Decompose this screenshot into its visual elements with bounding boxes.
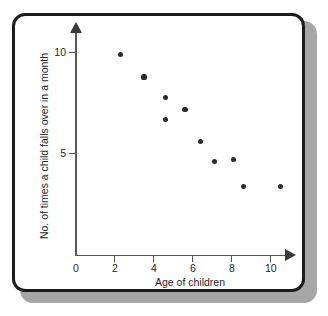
x-tick-mark	[231, 255, 232, 262]
data-point	[212, 159, 217, 164]
data-point	[278, 184, 283, 189]
data-point	[231, 157, 236, 162]
x-tick-label: 6	[182, 263, 204, 274]
y-axis-line	[75, 30, 77, 256]
x-tick-label: 0	[65, 263, 87, 274]
data-point	[182, 107, 187, 112]
x-tick-mark	[270, 255, 271, 262]
x-tick-mark	[114, 255, 115, 262]
x-axis-title: Age of children	[120, 276, 260, 288]
y-axis-arrow-icon	[70, 22, 82, 33]
x-tick-label: 10	[260, 263, 282, 274]
x-tick-mark	[192, 255, 193, 262]
data-point	[118, 52, 123, 57]
x-axis-line	[75, 255, 287, 257]
data-point	[241, 184, 246, 189]
data-point	[198, 139, 203, 144]
data-point	[163, 95, 168, 100]
y-axis-title: No. of times a child falls over in a mon…	[38, 46, 50, 246]
data-point	[163, 117, 168, 122]
x-axis-arrow-icon	[285, 249, 296, 261]
y-tick-mark	[69, 52, 76, 53]
x-tick-label: 4	[143, 263, 165, 274]
data-point	[141, 74, 146, 79]
x-tick-mark	[153, 255, 154, 262]
x-tick-label: 8	[221, 263, 243, 274]
y-tick-mark	[69, 153, 76, 154]
x-tick-label: 2	[104, 263, 126, 274]
scatter-plot: 510 0246810 Age of children No. of times…	[0, 0, 328, 316]
figure-root: 510 0246810 Age of children No. of times…	[0, 0, 328, 316]
